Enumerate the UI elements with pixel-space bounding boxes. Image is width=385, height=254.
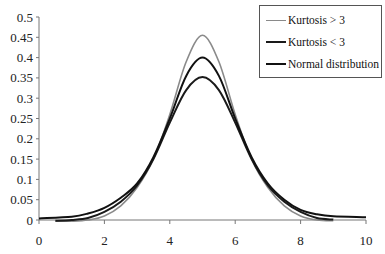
- y-tick-label: 0.05: [10, 192, 33, 207]
- x-tick-label: 8: [297, 233, 304, 248]
- y-tick-label: 0.5: [17, 10, 33, 25]
- legend-item-normal: Normal distribution: [266, 57, 379, 71]
- y-tick-label: 0.4: [17, 50, 34, 65]
- y-tick-label: 0.45: [10, 30, 33, 45]
- series-line-kurtosis-3: [55, 77, 333, 221]
- x-tick-label: 6: [232, 233, 239, 248]
- y-tick-label: 0.25: [10, 111, 33, 126]
- y-tick-label: 0.2: [17, 131, 33, 146]
- legend: Kurtosis > 3 Kurtosis < 3 Normal distrib…: [259, 5, 382, 78]
- y-tick-label: 0: [27, 213, 34, 228]
- y-tick-label: 0.1: [17, 172, 33, 187]
- y-tick-label: 0.15: [10, 152, 33, 167]
- legend-item-kurtosis-gt3: Kurtosis > 3: [266, 13, 345, 27]
- x-tick-label: 0: [36, 233, 43, 248]
- y-tick-label: 0.35: [10, 70, 33, 85]
- x-tick-label: 10: [360, 233, 373, 248]
- y-ticks: 00.050.10.150.20.250.30.350.40.450.5: [10, 10, 39, 228]
- x-ticks: 0246810: [36, 220, 373, 248]
- legend-line-icon: [266, 20, 286, 21]
- legend-label: Normal distribution: [288, 58, 379, 70]
- legend-line-icon: [266, 63, 286, 65]
- legend-label: Kurtosis < 3: [288, 36, 345, 48]
- x-tick-label: 2: [101, 233, 108, 248]
- legend-line-icon: [266, 41, 286, 43]
- y-tick-label: 0.3: [17, 91, 33, 106]
- legend-item-kurtosis-lt3: Kurtosis < 3: [266, 35, 345, 49]
- series-line-normal-distribution: [39, 58, 366, 219]
- x-tick-label: 4: [167, 233, 174, 248]
- legend-label: Kurtosis > 3: [288, 14, 345, 26]
